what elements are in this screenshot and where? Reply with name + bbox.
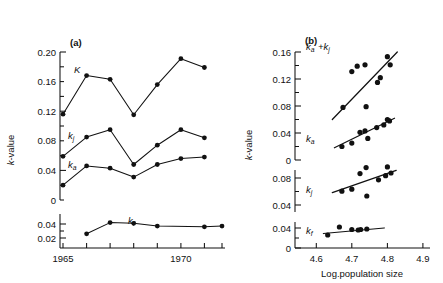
panel-b-ytick-0.12: 0.12 <box>273 74 292 85</box>
data-point <box>131 112 136 117</box>
panel-b-curve-label-kf: kf <box>306 225 314 237</box>
panel-b-kj-ytick-0.04: 0.04 <box>273 200 292 211</box>
panel-b-series-ka: ka <box>306 117 395 149</box>
panel-b-xtick-4.7: 4.7 <box>345 253 358 264</box>
data-point <box>131 162 136 167</box>
data-point <box>84 231 89 236</box>
panel-b-series-ka-plus-kj: ka +kj <box>306 41 397 120</box>
data-point <box>388 62 393 67</box>
data-point <box>349 187 354 192</box>
data-point <box>376 177 381 182</box>
data-point <box>108 127 113 132</box>
panel-a-ytick-0.12: 0.12 <box>38 106 57 117</box>
data-point <box>349 69 354 74</box>
data-point <box>364 104 369 109</box>
panel-a-ytick-0.04: 0.04 <box>38 165 57 176</box>
figure-svg: (a) k-value 0.20 0.16 0.12 0.08 0.04 0 <box>0 0 443 283</box>
panel-a-curve-label-ka: ka <box>68 159 77 171</box>
panel-a-x-axis: 1965 1970 <box>52 243 225 264</box>
data-point <box>108 220 113 225</box>
panel-a: (a) k-value 0.20 0.16 0.12 0.08 0.04 0 <box>5 37 225 264</box>
data-point <box>155 224 160 229</box>
data-point <box>202 65 207 70</box>
data-point <box>61 112 66 117</box>
data-point <box>378 75 383 80</box>
panel-b-series-kj: kj <box>306 164 396 198</box>
panel-b-kj-ytick-0.08: 0.08 <box>273 173 292 184</box>
data-point <box>61 154 66 159</box>
panel-a-series-K: K <box>61 56 207 117</box>
panel-a-series-ka: ka <box>61 155 207 188</box>
data-point <box>61 183 66 188</box>
panel-a-curve-label-kf: kf <box>128 215 136 227</box>
panel-b-xtick-4.6: 4.6 <box>310 253 323 264</box>
panel-b-kf-ytick-0.04: 0.04 <box>273 223 292 234</box>
panel-a-kf-ytick-0.04: 0.04 <box>38 219 57 230</box>
panel-a-y-axis-title: k-value <box>5 135 16 166</box>
data-point <box>202 135 207 140</box>
panel-a-ytick-0.08: 0.08 <box>38 135 57 146</box>
figure-root: (a) k-value 0.20 0.16 0.12 0.08 0.04 0 <box>0 0 443 283</box>
panel-a-xtick-1970: 1970 <box>170 253 191 264</box>
data-point <box>84 73 89 78</box>
data-point <box>179 156 184 161</box>
panel-b-y-axis-title: k-value <box>243 130 254 161</box>
panel-b-curve-label-kj: kj <box>306 184 313 197</box>
panel-a-ytick-0: 0 <box>51 195 56 206</box>
data-point <box>179 56 184 61</box>
panel-b-xtick-4.9: 4.9 <box>416 253 429 264</box>
data-point <box>202 224 207 229</box>
data-point <box>337 224 342 229</box>
panel-b-x-axis-title: Log.population size <box>321 268 403 279</box>
data-point <box>84 135 89 140</box>
panel-a-series-kf: kf <box>84 215 224 236</box>
panel-a-ytick-0.16: 0.16 <box>38 76 57 87</box>
panel-b-ytick-0: 0 <box>286 155 291 166</box>
data-point <box>364 193 369 198</box>
data-point <box>155 82 160 87</box>
panel-b-kf-ytick-0: 0 <box>286 243 291 254</box>
data-point <box>202 155 207 160</box>
panel-a-series-kj: kj <box>61 127 207 167</box>
data-point <box>84 164 89 169</box>
data-point <box>362 62 367 67</box>
data-point <box>375 80 380 85</box>
data-point <box>364 165 369 170</box>
data-point <box>108 166 113 171</box>
panel-a-label: (a) <box>70 37 82 48</box>
panel-a-kf-ytick-0.02: 0.02 <box>38 233 57 244</box>
panel-b-x-axis: 4.6 4.7 4.8 4.9 Log.population size <box>295 243 430 279</box>
panel-b-series-kf: kf <box>306 224 384 237</box>
panel-b-upper-axis: 0.16 0.12 0.08 0.04 0 <box>273 47 302 166</box>
data-point <box>155 143 160 148</box>
data-point <box>357 171 362 176</box>
panel-b-xtick-4.8: 4.8 <box>381 253 394 264</box>
panel-b-curve-label-ka: ka <box>306 133 315 145</box>
panel-b-lower-axis: 0.04 0 <box>273 222 302 254</box>
panel-b-ytick-0.08: 0.08 <box>273 101 292 112</box>
data-point <box>385 54 390 59</box>
data-point <box>365 136 370 141</box>
panel-b-curve-label-ka-plus-kj: ka +kj <box>306 41 331 54</box>
panel-b: (b) k-value 0.16 0.12 0.08 0.04 0 <box>243 35 430 279</box>
data-point <box>349 141 354 146</box>
panel-a-xtick-1965: 1965 <box>52 253 73 264</box>
panel-a-curve-label-K: K <box>74 64 81 75</box>
panel-a-upper-axis: 0.20 0.16 0.12 0.08 0.04 0 <box>38 47 67 206</box>
data-point <box>385 164 390 169</box>
data-point <box>108 77 113 82</box>
data-point <box>355 64 360 69</box>
panel-a-curve-label-kj: kj <box>68 130 75 143</box>
data-point <box>155 162 160 167</box>
panel-a-ytick-0.20: 0.20 <box>38 47 57 58</box>
panel-b-ytick-0.04: 0.04 <box>273 128 292 139</box>
panel-b-ytick-0.16: 0.16 <box>273 47 292 58</box>
data-point <box>220 224 225 229</box>
data-point <box>131 175 136 180</box>
data-point <box>179 127 184 132</box>
panel-b-middle-axis: 0.08 0.04 <box>273 170 302 212</box>
panel-a-lower-axis: 0.04 0.02 <box>38 214 67 248</box>
